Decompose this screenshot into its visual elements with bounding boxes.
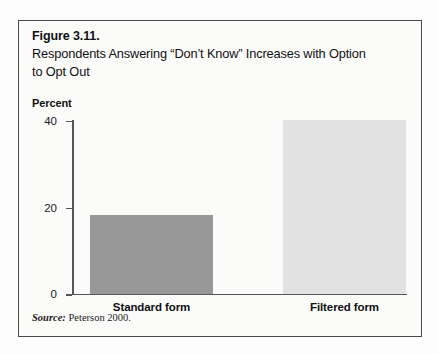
y-axis-line <box>72 120 74 295</box>
y-tick-0: 0 <box>66 294 72 296</box>
y-tick-label-0: 0 <box>51 288 57 300</box>
source-label: Source: <box>32 312 66 323</box>
bar-filtered-form[interactable] <box>283 120 406 294</box>
figure-caption: Figure 3.11. Respondents Answering “Don’… <box>32 28 372 80</box>
y-tick-20: 20 <box>66 208 72 210</box>
y-tick-label-40: 40 <box>44 115 57 127</box>
figure-panel: Figure 3.11. Respondents Answering “Don’… <box>18 20 422 337</box>
y-tick-label-20: 20 <box>44 202 57 214</box>
source-note: Source: Peterson 2000. <box>32 312 131 323</box>
y-tick-40: 40 <box>66 121 72 123</box>
figure-title: Respondents Answering “Don’t Know” Incre… <box>32 45 372 80</box>
x-axis-line <box>72 294 407 296</box>
x-axis-label-filtered-form: Filtered form <box>310 301 379 313</box>
bar-standard-form[interactable] <box>90 215 213 293</box>
chart-plot-area: 02040 Standard formFiltered form <box>72 120 407 295</box>
source-value: Peterson 2000. <box>66 312 131 323</box>
figure-number: Figure 3.11. <box>32 28 372 44</box>
y-axis-title: Percent <box>32 97 72 109</box>
